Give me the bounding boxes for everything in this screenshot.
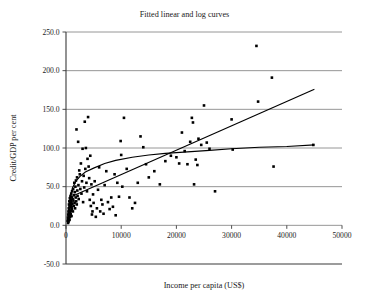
x-tick-label: 20000 bbox=[167, 231, 186, 240]
data-point bbox=[200, 144, 203, 147]
data-point bbox=[136, 182, 139, 185]
data-point bbox=[76, 195, 79, 198]
data-point bbox=[95, 216, 98, 219]
data-point bbox=[85, 182, 88, 185]
data-point bbox=[205, 141, 208, 144]
x-tick-label: 10000 bbox=[112, 231, 131, 240]
data-point bbox=[75, 203, 78, 206]
chart-container: Fitted linear and log curves 250.0200.01… bbox=[0, 0, 369, 299]
y-tick-label: 150.0 bbox=[42, 105, 59, 114]
data-point bbox=[113, 173, 116, 176]
data-point bbox=[196, 164, 199, 167]
data-point bbox=[110, 196, 113, 199]
data-point bbox=[76, 189, 79, 192]
data-point bbox=[119, 140, 122, 143]
data-point bbox=[170, 154, 173, 157]
data-point bbox=[255, 45, 258, 48]
data-point bbox=[181, 131, 184, 134]
data-point bbox=[87, 165, 90, 168]
data-point bbox=[72, 210, 75, 213]
data-point bbox=[89, 154, 92, 157]
data-point bbox=[79, 188, 82, 191]
data-point bbox=[271, 76, 274, 79]
data-point bbox=[75, 200, 78, 203]
data-point bbox=[99, 210, 102, 213]
data-point bbox=[101, 203, 104, 206]
data-point bbox=[92, 202, 95, 205]
data-point bbox=[88, 199, 91, 202]
data-point bbox=[123, 117, 126, 120]
data-point bbox=[87, 116, 90, 119]
data-point bbox=[83, 186, 86, 189]
data-point bbox=[92, 193, 95, 196]
data-point bbox=[77, 198, 80, 201]
data-point bbox=[189, 141, 192, 144]
y-tick-label: 100.0 bbox=[42, 144, 59, 153]
data-point bbox=[114, 214, 117, 217]
data-point bbox=[82, 201, 85, 204]
data-point bbox=[116, 182, 119, 185]
chart-title: Fitted linear and log curves bbox=[140, 10, 230, 19]
x-axis-title: Income per capita (US$) bbox=[164, 281, 245, 290]
data-point bbox=[91, 213, 94, 216]
y-tick-label: 50.0 bbox=[46, 182, 59, 191]
data-point bbox=[86, 158, 89, 161]
data-point bbox=[69, 212, 72, 215]
y-tick-label: 200.0 bbox=[42, 66, 59, 75]
data-point bbox=[214, 190, 217, 193]
data-point bbox=[96, 207, 99, 210]
y-tick-label: -50.0 bbox=[44, 260, 60, 269]
fit-line-fitted-linear-curve bbox=[69, 89, 314, 197]
x-tick-label: 50000 bbox=[333, 231, 352, 240]
data-point bbox=[112, 205, 115, 208]
data-point bbox=[93, 180, 96, 183]
data-point bbox=[84, 168, 87, 171]
data-point bbox=[139, 135, 142, 138]
data-point bbox=[148, 176, 151, 179]
y-axis-ticks-group: 250.0200.0150.0100.050.00.0-50.0 bbox=[42, 28, 66, 269]
data-point bbox=[120, 154, 123, 157]
series-layer bbox=[66, 45, 314, 225]
data-point bbox=[83, 120, 86, 123]
scatter-series bbox=[66, 45, 314, 225]
data-point bbox=[186, 163, 189, 166]
data-point bbox=[203, 104, 206, 107]
data-point bbox=[105, 170, 108, 173]
data-point bbox=[142, 146, 145, 149]
data-point bbox=[230, 118, 233, 121]
data-point bbox=[131, 207, 134, 210]
data-point bbox=[121, 185, 124, 188]
data-point bbox=[68, 219, 71, 222]
data-point bbox=[78, 169, 81, 172]
data-point bbox=[88, 177, 91, 180]
data-point bbox=[72, 205, 75, 208]
data-point bbox=[90, 205, 93, 208]
data-point bbox=[191, 117, 194, 120]
data-point bbox=[77, 184, 80, 187]
data-point bbox=[178, 162, 181, 165]
data-point bbox=[118, 195, 121, 198]
data-point bbox=[70, 215, 73, 218]
data-point bbox=[97, 188, 100, 191]
data-point bbox=[272, 165, 275, 168]
data-point bbox=[107, 201, 110, 204]
x-tick-label: 40000 bbox=[277, 231, 296, 240]
data-point bbox=[103, 184, 106, 187]
data-point bbox=[164, 160, 167, 163]
data-point bbox=[175, 156, 178, 159]
data-point bbox=[90, 183, 93, 186]
data-point bbox=[125, 168, 128, 171]
data-point bbox=[257, 100, 260, 103]
scatter-plot-svg: Fitted linear and log curves 250.0200.01… bbox=[0, 0, 369, 299]
data-point bbox=[102, 212, 105, 215]
data-point bbox=[72, 199, 75, 202]
data-point bbox=[91, 210, 94, 213]
data-point bbox=[159, 183, 162, 186]
data-point bbox=[74, 207, 77, 210]
data-point bbox=[74, 191, 77, 194]
y-tick-label: 250.0 bbox=[42, 28, 59, 37]
data-point bbox=[77, 141, 80, 144]
data-point bbox=[134, 202, 137, 205]
data-point bbox=[194, 158, 197, 161]
data-point bbox=[193, 183, 196, 186]
